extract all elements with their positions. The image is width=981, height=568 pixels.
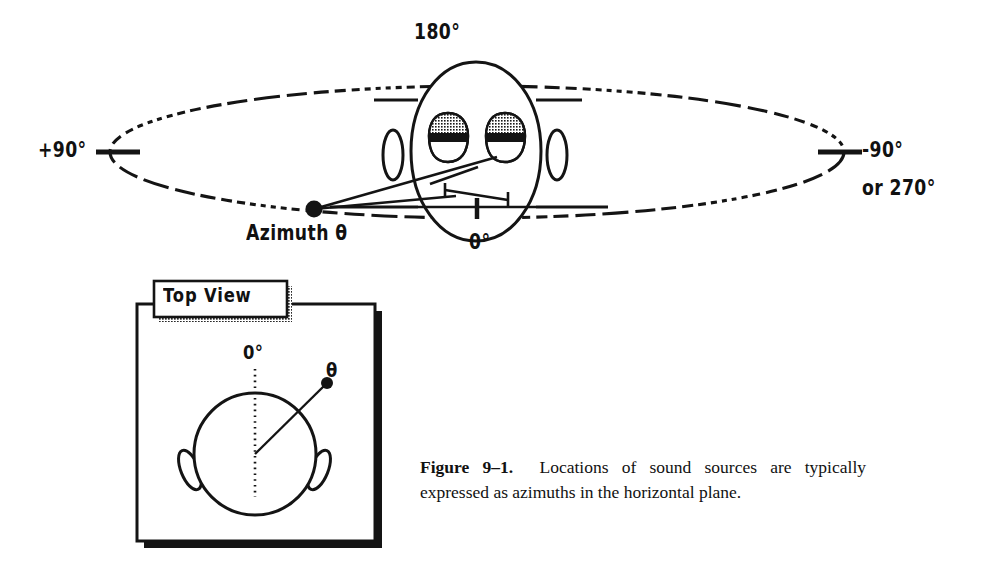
label-azimuth-theta: Azimuth θ [246,223,347,244]
figure-9-1: 180° +90° -90° or 270° Azimuth θ 0° Top … [0,0,981,568]
eye-right-icon [486,113,525,162]
sound-source-dot [306,201,323,218]
head-front-view [383,62,567,241]
label-rear-180: 180° [414,22,460,43]
top-view-label-theta: θ [326,360,338,380]
ear-right-icon [547,130,567,180]
ear-left-icon [383,130,403,180]
figure-caption-number: Figure 9–1. [420,457,540,477]
top-view-label-zero: 0° [243,342,263,362]
label-right-minus90: -90° [862,140,903,161]
figure-caption: Figure 9–1. Locations of sound sources a… [420,455,866,505]
top-view-panel [137,281,382,548]
top-view-panel-title: Top View [163,285,252,305]
label-right-or270: or 270° [862,178,936,199]
eye-left-icon [429,113,468,162]
label-left-plus90: +90° [38,140,87,161]
label-front-zero: 0° [469,232,490,253]
